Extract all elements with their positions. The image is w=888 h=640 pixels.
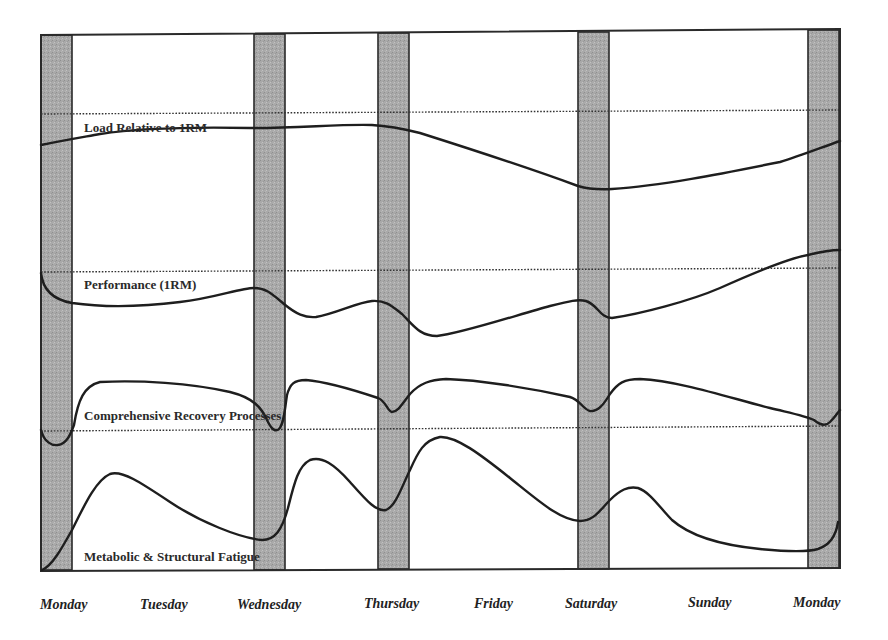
fatigue-series-label: Metabolic & Structural Fatigue — [84, 549, 260, 564]
recovery-reference-line — [41, 426, 840, 431]
performance-1rm-curve — [41, 250, 840, 336]
training-day-bands — [41, 30, 839, 570]
day-label-tuesday: Tuesday — [140, 597, 188, 612]
day-label-friday: Friday — [473, 596, 514, 611]
performance-series-label: Performance (1RM) — [84, 277, 196, 292]
performance-reference-line — [41, 268, 840, 272]
load-reference-line — [41, 110, 840, 114]
recovery-series-label: Comprehensive Recovery Processes — [84, 408, 281, 423]
day-label-thursday: Thursday — [364, 596, 420, 611]
training-response-diagram: Load Relative to 1RM Performance (1RM) C… — [0, 0, 888, 640]
day-label-saturday: Saturday — [565, 596, 618, 611]
load-series-label: Load Relative to 1RM — [84, 120, 207, 135]
day-label-monday-next: Monday — [792, 595, 841, 610]
day-label-wednesday: Wednesday — [237, 597, 302, 612]
x-axis-day-labels: Monday Tuesday Wednesday Thursday Friday… — [39, 595, 841, 612]
day-label-monday: Monday — [39, 597, 88, 612]
day-label-sunday: Sunday — [688, 595, 732, 610]
